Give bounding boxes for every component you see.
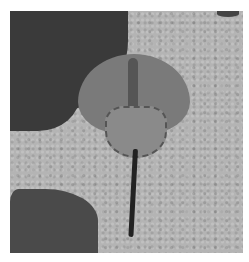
rock-top-right xyxy=(217,11,239,17)
horseshoe-crab-tail xyxy=(128,149,138,237)
photo xyxy=(10,11,243,253)
rock-bottom-left xyxy=(10,189,98,253)
